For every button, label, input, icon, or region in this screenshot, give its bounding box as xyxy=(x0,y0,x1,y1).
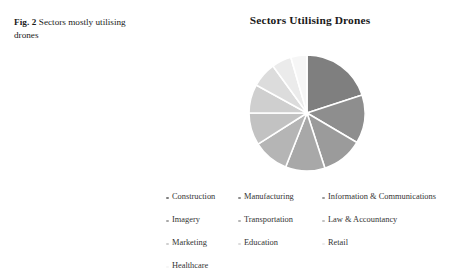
legend-item[interactable]: Law & Accountancy xyxy=(322,216,462,224)
figure-label: Fig. 2 xyxy=(14,17,37,27)
legend-item-label: Retail xyxy=(328,239,348,247)
pie-chart-svg xyxy=(248,52,366,174)
legend-swatch-icon xyxy=(322,243,325,246)
legend-item[interactable]: Information & Communications xyxy=(322,193,462,201)
legend-item-label: Imagery xyxy=(172,216,200,224)
legend-swatch-icon xyxy=(166,266,169,269)
legend-item-label: Law & Accountancy xyxy=(328,216,397,224)
pie-chart-plot-area xyxy=(248,52,366,174)
legend-item-label: Manufacturing xyxy=(244,193,294,201)
legend-swatch-icon xyxy=(322,197,325,200)
legend-swatch-icon xyxy=(166,243,169,246)
legend-item-label: Information & Communications xyxy=(328,193,436,201)
legend-item[interactable]: Retail xyxy=(322,239,462,247)
legend-item-label: Marketing xyxy=(172,239,207,247)
legend-item[interactable]: Education xyxy=(238,239,322,247)
legend-swatch-icon xyxy=(166,197,169,200)
pie-slice-group xyxy=(249,55,365,171)
legend-swatch-icon xyxy=(238,220,241,223)
legend-item[interactable]: Manufacturing xyxy=(238,193,322,201)
legend-swatch-icon xyxy=(238,243,241,246)
legend-item-label: Healthcare xyxy=(172,262,208,270)
legend-swatch-icon xyxy=(322,220,325,223)
legend-item[interactable]: Construction xyxy=(166,193,238,201)
chart-title: Sectors Utilising Drones xyxy=(160,14,460,26)
legend-swatch-icon xyxy=(238,197,241,200)
legend-item-label: Education xyxy=(244,239,278,247)
legend-swatch-icon xyxy=(166,220,169,223)
legend-item[interactable]: Marketing xyxy=(166,239,238,247)
legend-item[interactable]: Transportation xyxy=(238,216,322,224)
legend-item[interactable]: Imagery xyxy=(166,216,238,224)
legend-item[interactable]: Healthcare xyxy=(166,262,238,270)
legend-item-label: Construction xyxy=(172,193,215,201)
chart-legend: ConstructionManufacturingInformation & C… xyxy=(166,186,462,272)
figure-caption: Fig. 2 Sectors mostly utilising drones xyxy=(14,16,144,43)
legend-item-label: Transportation xyxy=(244,216,293,224)
pie-chart-figure: Sectors Utilising Drones ConstructionMan… xyxy=(160,8,460,264)
